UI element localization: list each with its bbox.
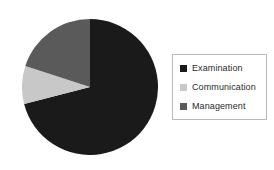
chart-legend: Examination Communication Management [172, 54, 267, 120]
legend-label-communication: Communication [192, 82, 256, 92]
legend-swatch-communication [180, 84, 187, 91]
legend-label-management: Management [192, 101, 246, 111]
pie-chart-plot-area [22, 19, 158, 155]
legend-item-management[interactable]: Management [180, 99, 260, 113]
legend-label-examination: Examination [192, 63, 243, 73]
legend-item-communication[interactable]: Communication [180, 80, 260, 94]
legend-item-examination[interactable]: Examination [180, 61, 260, 75]
pie-chart-figure: Examination Communication Management [0, 0, 274, 170]
legend-swatch-management [180, 103, 187, 110]
legend-swatch-examination [180, 65, 187, 72]
pie-slice-group [22, 19, 158, 155]
pie-chart-svg [22, 19, 158, 155]
